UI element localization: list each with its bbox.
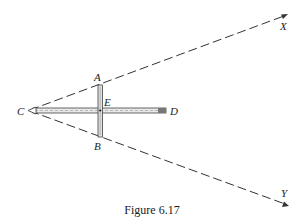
sight-line-cy <box>30 111 285 204</box>
sight-line-cx <box>30 16 284 110</box>
label-c: C <box>17 105 25 117</box>
transversal-ab <box>98 85 103 137</box>
label-e: E <box>103 96 111 108</box>
label-a: A <box>93 71 101 83</box>
label-x: X <box>279 20 288 32</box>
label-d: D <box>169 105 178 117</box>
figure-caption: Figure 6.17 <box>124 203 179 217</box>
cross-staff-diagram: A B C D E X Y Figure 6.17 <box>0 0 303 223</box>
arrowhead-x-icon <box>281 14 288 19</box>
label-b: B <box>94 140 101 152</box>
label-y: Y <box>281 187 289 199</box>
rod-cd <box>28 107 166 114</box>
arrowhead-y-icon <box>282 202 289 208</box>
